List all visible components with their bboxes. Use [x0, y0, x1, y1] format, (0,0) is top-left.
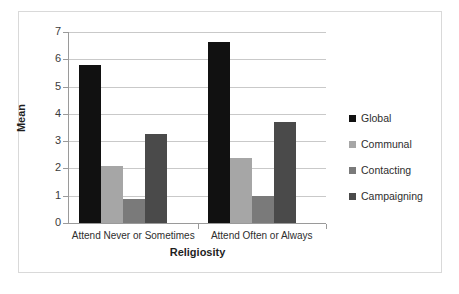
chart-legend: GlobalCommunalContactingCampaigning: [349, 107, 441, 211]
y-tick-label-1: 1: [31, 190, 61, 201]
bar-contacting-group-2: [252, 196, 274, 223]
legend-swatch-icon-communal: [349, 141, 356, 148]
y-tick-label-6: 6: [31, 53, 61, 64]
legend-swatch-icon-campaigning: [349, 193, 356, 200]
legend-item-campaigning: Campaigning: [349, 185, 441, 207]
x-axis-separator-2: [326, 224, 327, 229]
y-tick-mark-1: [63, 196, 68, 197]
y-tick-mark-2: [63, 168, 68, 169]
bar-contacting-group-1: [123, 199, 145, 223]
x-axis-title: Religiosity: [69, 246, 326, 258]
plot-area: [69, 32, 326, 223]
bar-communal-group-1: [101, 166, 123, 223]
y-tick-label-3: 3: [31, 135, 61, 146]
x-category-label-1: Attend Never or Sometimes: [69, 230, 198, 241]
bar-global-group-1: [79, 65, 101, 223]
y-tick-label-4: 4: [31, 108, 61, 119]
gridline-6: [69, 59, 326, 60]
y-tick-mark-0: [63, 223, 68, 224]
y-axis-tick-labels: 01234567: [21, 12, 61, 274]
legend-label-global: Global: [361, 112, 391, 124]
legend-label-communal: Communal: [361, 138, 412, 150]
y-tick-mark-3: [63, 141, 68, 142]
chart-frame: Mean 01234567 Attend Never or SometimesA…: [18, 11, 442, 273]
legend-swatch-icon-contacting: [349, 167, 356, 174]
y-tick-label-5: 5: [31, 81, 61, 92]
bar-communal-group-2: [230, 158, 252, 223]
gridline-4: [69, 114, 326, 115]
y-tick-mark-6: [63, 59, 68, 60]
y-tick-mark-5: [63, 87, 68, 88]
y-tick-label-7: 7: [31, 26, 61, 37]
x-axis-separator-1: [198, 224, 199, 229]
y-tick-label-2: 2: [31, 162, 61, 173]
legend-label-contacting: Contacting: [361, 164, 411, 176]
legend-swatch-icon-global: [349, 115, 356, 122]
bar-campaigning-group-1: [145, 134, 167, 223]
y-tick-label-0: 0: [31, 217, 61, 228]
legend-item-global: Global: [349, 107, 441, 129]
gridline-5: [69, 87, 326, 88]
x-category-label-2: Attend Often or Always: [198, 230, 327, 241]
legend-item-communal: Communal: [349, 133, 441, 155]
bar-global-group-2: [208, 42, 230, 223]
y-tick-mark-7: [63, 32, 68, 33]
legend-label-campaigning: Campaigning: [361, 190, 423, 202]
y-tick-mark-4: [63, 114, 68, 115]
legend-item-contacting: Contacting: [349, 159, 441, 181]
gridline-7: [69, 32, 326, 33]
bar-campaigning-group-2: [274, 122, 296, 223]
